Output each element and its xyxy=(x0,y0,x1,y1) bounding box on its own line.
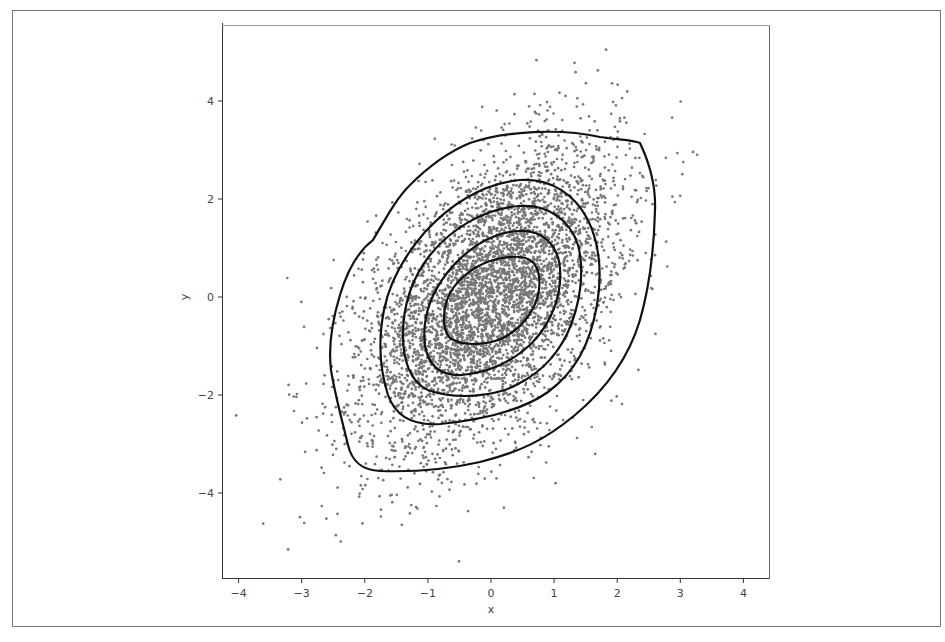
data-point xyxy=(387,375,390,378)
data-point xyxy=(531,267,534,270)
data-point xyxy=(420,338,423,341)
data-point xyxy=(468,321,471,324)
data-point xyxy=(549,202,552,205)
data-point xyxy=(507,264,510,267)
data-point xyxy=(410,417,413,420)
data-point xyxy=(432,310,435,313)
data-point xyxy=(422,457,425,460)
data-point xyxy=(484,280,487,283)
data-point xyxy=(448,366,451,369)
data-point xyxy=(411,380,414,383)
data-point xyxy=(543,260,546,263)
data-point xyxy=(524,275,527,278)
data-point xyxy=(412,332,415,335)
data-point xyxy=(412,343,415,346)
data-point xyxy=(481,106,484,109)
data-point xyxy=(530,188,533,191)
data-point xyxy=(383,365,386,368)
data-point xyxy=(547,445,550,448)
data-point xyxy=(494,194,497,197)
data-point xyxy=(515,248,518,251)
data-point xyxy=(506,315,509,318)
data-point xyxy=(425,463,428,466)
data-point xyxy=(601,267,604,270)
data-point xyxy=(598,326,601,329)
data-point xyxy=(392,355,395,358)
data-point xyxy=(456,462,459,465)
data-point xyxy=(489,253,492,256)
data-point xyxy=(381,279,384,282)
data-point xyxy=(450,407,453,410)
data-point xyxy=(556,332,559,335)
data-point xyxy=(587,289,590,292)
data-point xyxy=(417,439,420,442)
data-point xyxy=(592,292,595,295)
data-point xyxy=(498,398,501,401)
data-point xyxy=(526,388,529,391)
data-point xyxy=(603,155,606,158)
data-point xyxy=(461,339,464,342)
data-point xyxy=(433,430,436,433)
data-point xyxy=(330,414,333,417)
data-point xyxy=(451,305,454,308)
data-point xyxy=(465,311,468,314)
data-point xyxy=(439,313,442,316)
data-point xyxy=(542,299,545,302)
data-point xyxy=(610,350,613,353)
data-point xyxy=(565,147,568,150)
data-point xyxy=(372,277,375,280)
y-tick-label: 2 xyxy=(207,193,214,206)
data-point xyxy=(559,178,562,181)
data-point xyxy=(480,353,483,356)
data-point xyxy=(512,300,515,303)
data-point xyxy=(572,290,575,293)
data-point xyxy=(610,294,613,297)
data-point xyxy=(513,113,516,116)
data-point xyxy=(612,180,615,183)
data-point xyxy=(427,278,430,281)
data-point xyxy=(440,232,443,235)
data-point xyxy=(549,263,552,266)
data-point xyxy=(427,433,430,436)
data-point xyxy=(464,302,467,305)
data-point xyxy=(526,372,529,375)
data-point xyxy=(486,381,489,384)
data-point xyxy=(471,313,474,316)
data-point xyxy=(455,289,458,292)
data-point xyxy=(502,174,505,177)
data-point xyxy=(568,274,571,277)
data-point xyxy=(506,185,509,188)
data-point xyxy=(404,377,407,380)
data-point xyxy=(566,204,569,207)
data-point xyxy=(469,428,472,431)
data-point xyxy=(544,155,547,158)
data-point xyxy=(590,162,593,165)
data-point xyxy=(369,307,372,310)
data-point xyxy=(352,300,355,303)
data-point xyxy=(350,421,353,424)
data-point xyxy=(481,355,484,358)
data-point xyxy=(406,327,409,330)
data-point xyxy=(512,334,515,337)
data-point xyxy=(570,309,573,312)
data-point xyxy=(484,203,487,206)
data-point xyxy=(503,123,506,126)
data-point xyxy=(639,172,642,175)
data-point xyxy=(479,254,482,257)
data-point xyxy=(466,291,469,294)
data-point xyxy=(617,194,620,197)
data-point xyxy=(508,277,511,280)
data-point xyxy=(537,187,540,190)
data-point xyxy=(262,522,265,525)
data-point xyxy=(522,341,525,344)
data-point xyxy=(436,322,439,325)
data-point xyxy=(364,296,367,299)
data-point xyxy=(512,304,515,307)
data-point xyxy=(624,263,627,266)
data-point xyxy=(545,161,548,164)
data-point xyxy=(414,425,417,428)
data-point xyxy=(471,290,474,293)
data-point xyxy=(445,447,448,450)
data-point xyxy=(575,210,578,213)
data-point xyxy=(532,350,535,353)
